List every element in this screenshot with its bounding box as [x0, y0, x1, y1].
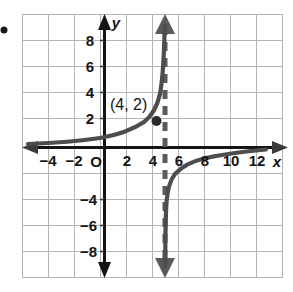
x-axis-label: x [272, 153, 282, 170]
bullet-marker-icon [1, 27, 8, 34]
figure-container: 8 6 4 2 −4 −6 −8 −4 −2 2 4 6 8 10 12 O x… [0, 0, 293, 292]
y-tick-label-4: 4 [86, 84, 95, 101]
y-tick-label-neg4: −4 [80, 191, 98, 208]
x-tick-label-neg2: −2 [65, 152, 82, 169]
y-tick-label-neg6: −6 [80, 217, 97, 234]
y-tick-label-2: 2 [86, 110, 94, 127]
x-tick-label-12: 12 [249, 152, 266, 169]
point-annotation-label: (4, 2) [110, 96, 147, 113]
x-tick-label-6: 6 [175, 152, 183, 169]
coordinate-graph: 8 6 4 2 −4 −6 −8 −4 −2 2 4 6 8 10 12 O x… [0, 0, 293, 292]
x-tick-label-8: 8 [201, 152, 209, 169]
x-tick-label-4: 4 [149, 152, 158, 169]
y-axis-label: y [111, 14, 121, 31]
x-tick-label-2: 2 [123, 152, 131, 169]
x-tick-label-10: 10 [223, 152, 240, 169]
y-tick-label-neg8: −8 [80, 243, 97, 260]
x-tick-label-neg4: −4 [39, 152, 57, 169]
y-tick-label-6: 6 [86, 58, 94, 75]
plotted-point-4-2 [152, 116, 162, 126]
y-tick-label-8: 8 [86, 32, 94, 49]
origin-label: O [90, 153, 102, 170]
